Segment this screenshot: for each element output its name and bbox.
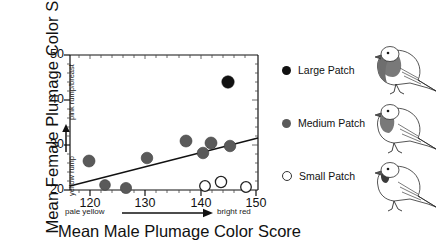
series-large-patch (222, 76, 234, 88)
legend-item-small-patch[interactable]: Small Patch (282, 170, 355, 182)
open-circle-icon (282, 171, 292, 181)
data-point (200, 181, 211, 192)
data-point (83, 155, 95, 167)
x-axis-direction-arrow (122, 207, 214, 219)
y-major-ticks (64, 55, 70, 190)
figure-panel: Mean Female Plumage Color Score pink rum… (0, 0, 441, 247)
data-point (222, 76, 234, 88)
x-major-ticks (90, 190, 256, 196)
data-point (197, 147, 209, 159)
legend-label: Small Patch (299, 170, 355, 182)
data-point (180, 135, 192, 147)
legend-label: Large Patch (298, 64, 355, 76)
filled-black-circle-icon (282, 66, 291, 75)
legend-item-medium-patch[interactable]: Medium Patch (282, 117, 365, 129)
data-point (100, 180, 111, 191)
legend-item-large-patch[interactable]: Large Patch (282, 64, 355, 76)
data-point (141, 152, 153, 164)
right-axis-minor-ticks (252, 64, 258, 181)
data-point (241, 182, 252, 193)
data-point (215, 176, 226, 187)
plot-area (0, 0, 300, 215)
data-point (120, 182, 131, 193)
data-point (205, 137, 217, 149)
series-medium-patch (83, 135, 236, 194)
x-axis-note-left: pale yellow (65, 207, 105, 216)
x-axis-title: Mean Male Plumage Color Score (58, 222, 270, 241)
x-axis-note-right: bright red (217, 207, 251, 216)
finch-small-patch-illustration (366, 158, 438, 214)
finch-large-patch-illustration (366, 42, 438, 98)
filled-gray-circle-icon (282, 119, 291, 128)
finch-medium-patch-illustration (366, 100, 438, 156)
data-point (224, 140, 236, 152)
legend-label: Medium Patch (298, 117, 365, 129)
